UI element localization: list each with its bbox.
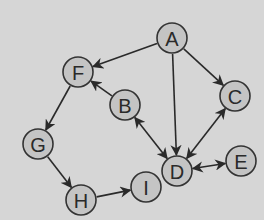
- node-label: F: [72, 62, 84, 84]
- node-label: H: [74, 190, 88, 212]
- node-h: H: [66, 185, 96, 215]
- node-c: C: [220, 81, 250, 111]
- node-i: I: [131, 172, 161, 202]
- node-label: E: [234, 151, 247, 173]
- node-g: G: [23, 129, 53, 159]
- graph-diagram: ABCDEFGHI: [0, 0, 264, 220]
- node-e: E: [226, 146, 256, 176]
- node-f: F: [63, 57, 93, 87]
- node-label: C: [228, 86, 242, 108]
- node-d: D: [162, 156, 192, 186]
- node-label: D: [170, 161, 184, 183]
- node-b: B: [110, 90, 140, 120]
- node-label: A: [165, 28, 179, 50]
- node-a: A: [157, 23, 187, 53]
- node-label: I: [143, 177, 149, 199]
- node-label: B: [118, 95, 131, 117]
- node-label: G: [30, 134, 46, 156]
